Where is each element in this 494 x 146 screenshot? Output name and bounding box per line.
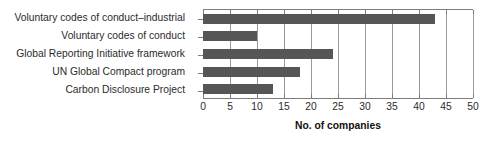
- axis-tick: [473, 94, 474, 98]
- bar-row: [203, 28, 473, 46]
- category-label: Voluntary codes of conduct–industrial: [0, 9, 192, 27]
- axis-tick: [473, 10, 474, 14]
- x-tick-label: 30: [359, 101, 370, 112]
- bar: [203, 14, 435, 24]
- x-tick-label: 20: [305, 101, 316, 112]
- x-tick-label: 10: [251, 101, 262, 112]
- bar-row: [203, 45, 473, 63]
- bar-row: [203, 10, 473, 28]
- gridline: [473, 10, 474, 98]
- category-label: Carbon Disclosure Project: [0, 81, 192, 99]
- bar-row: [203, 63, 473, 81]
- category-label: Voluntary codes of conduct: [0, 27, 192, 45]
- bar: [203, 67, 300, 77]
- x-tick-label: 40: [413, 101, 424, 112]
- x-axis-title: No. of companies: [203, 120, 473, 131]
- category-label: Global Reporting Initiative framework: [0, 45, 192, 63]
- x-tick-label: 25: [332, 101, 343, 112]
- bar-series: [203, 10, 473, 98]
- x-tick-label: 15: [278, 101, 289, 112]
- bar: [203, 49, 333, 59]
- bar-row: [203, 80, 473, 98]
- category-label: UN Global Compact program: [0, 63, 192, 81]
- value-axis: 05101520253035404550: [203, 101, 473, 114]
- bar: [203, 84, 273, 94]
- category-axis: Voluntary codes of conduct–industrial Vo…: [0, 9, 192, 99]
- plot-area: [203, 9, 473, 99]
- x-tick-label: 5: [227, 101, 233, 112]
- bar-chart: Voluntary codes of conduct–industrial Vo…: [0, 0, 494, 146]
- bar: [203, 31, 257, 41]
- x-tick-label: 0: [200, 101, 206, 112]
- x-tick-label: 50: [467, 101, 478, 112]
- x-tick-label: 45: [440, 101, 451, 112]
- x-tick-label: 35: [386, 101, 397, 112]
